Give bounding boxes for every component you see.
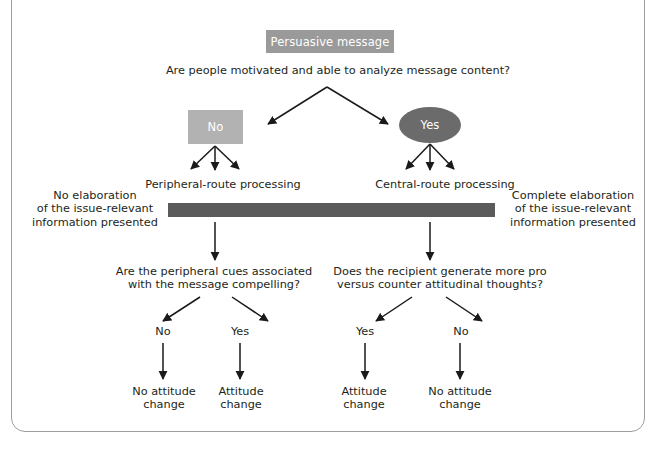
- top-question-label: Are people motivated and able to analyze…: [148, 64, 528, 77]
- persuasive-message-node: Persuasive message: [266, 30, 394, 53]
- arrow-yes-fan-right: [430, 144, 454, 169]
- outcome-left-attitude-change: Attitude change: [200, 385, 282, 412]
- answer-label-right-no: No: [438, 325, 484, 338]
- arrow-left-question-yes: [232, 297, 268, 321]
- branch-node-yes: Yes: [399, 107, 461, 143]
- arrow-left-question-no: [163, 297, 200, 321]
- complete-elaboration-note: Complete elaboration of the issue-releva…: [498, 189, 648, 229]
- answer-label-left-no: No: [140, 325, 186, 338]
- arrow-no-fan-left: [191, 146, 215, 169]
- outcome-right-attitude-change: Attitude change: [322, 385, 406, 412]
- arrow-right-question-yes: [376, 297, 412, 321]
- peripheral-cues-question-label: Are the peripheral cues associated with …: [98, 265, 330, 292]
- no-elaboration-note: No elaboration of the issue-relevant inf…: [26, 189, 164, 229]
- arrow-no-fan-right: [215, 146, 239, 169]
- arrow-right-question-no: [446, 297, 482, 321]
- answer-label-left-yes: Yes: [217, 325, 263, 338]
- outcome-left-no-attitude-change: No attitude change: [118, 385, 210, 412]
- arrow-to-no: [268, 87, 327, 124]
- branch-node-no: No: [188, 110, 243, 144]
- arrow-yes-fan-left: [406, 144, 430, 169]
- arrow-to-yes: [327, 87, 388, 124]
- outcome-right-no-attitude-change: No attitude change: [410, 385, 510, 412]
- elaboration-continuum-bar: [168, 203, 495, 217]
- diagram-canvas: Persuasive message No Yes Are people mot…: [0, 0, 659, 450]
- answer-label-right-yes: Yes: [342, 325, 388, 338]
- recipient-thoughts-question-label: Does the recipient generate more pro ver…: [322, 265, 558, 292]
